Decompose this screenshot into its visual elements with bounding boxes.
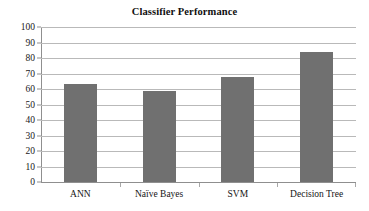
y-tick-label-20: 20	[26, 146, 36, 156]
x-axis-ticks	[41, 183, 356, 187]
y-tick-label-50: 50	[26, 100, 36, 110]
x-tick-label-svm: SVM	[199, 188, 278, 200]
chart-title: Classifier Performance	[0, 6, 369, 18]
y-tick-label-40: 40	[26, 115, 36, 125]
bar-ann	[64, 84, 97, 182]
y-tick-label-0: 0	[30, 177, 35, 187]
y-axis-labels: 1009080706050403020100	[0, 27, 41, 182]
y-tick-label-100: 100	[21, 22, 35, 32]
x-tick-mark-3	[277, 183, 278, 187]
y-tick-label-80: 80	[26, 53, 36, 63]
bar-svm	[221, 77, 254, 182]
x-tick-label-naïve-bayes: Naïve Bayes	[120, 188, 199, 200]
x-tick-mark-2	[199, 183, 200, 187]
bar-series	[41, 27, 356, 182]
bar-naïve-bayes	[143, 91, 176, 182]
bar-decision-tree	[300, 52, 333, 182]
y-tick-label-90: 90	[26, 38, 36, 48]
x-axis-labels: ANNNaïve BayesSVMDecision Tree	[41, 188, 356, 204]
plot-area	[41, 27, 356, 182]
x-tick-label-ann: ANN	[41, 188, 120, 200]
y-tick-label-60: 60	[26, 84, 36, 94]
y-tick-label-30: 30	[26, 131, 36, 141]
classifier-performance-chart: Classifier Performance 10090807060504030…	[0, 0, 369, 211]
x-tick-label-decision-tree: Decision Tree	[277, 188, 356, 200]
x-tick-mark-end	[355, 183, 356, 187]
y-tick-label-70: 70	[26, 69, 36, 79]
y-tick-label-10: 10	[26, 162, 36, 172]
x-tick-mark-1	[120, 183, 121, 187]
